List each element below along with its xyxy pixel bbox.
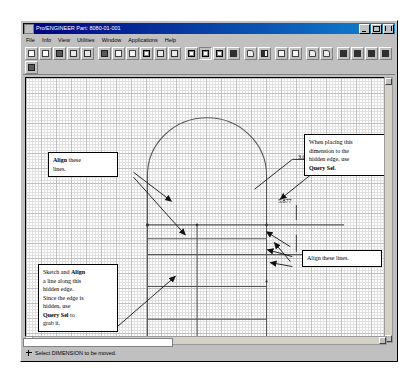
callout-qs-l2: dimension to the <box>309 147 381 156</box>
callout-align-lines-bold: Align <box>53 157 67 163</box>
callout-align-lines: Align these lines. <box>48 152 118 177</box>
scroll-right-button[interactable] <box>379 337 386 344</box>
shaded-icon[interactable] <box>227 47 240 60</box>
callout-sa-l7: grab it. <box>43 319 113 328</box>
callout-qs-period: . <box>335 165 337 171</box>
print-preview-icon[interactable] <box>67 47 80 60</box>
callout-sa-l6b: to <box>69 312 75 318</box>
open-file-icon[interactable] <box>39 47 52 60</box>
sketch-tool-icon[interactable] <box>25 61 38 74</box>
menu-item-info[interactable]: Info <box>42 36 51 45</box>
maximize-button[interactable] <box>371 24 382 34</box>
no-hidden-icon[interactable] <box>213 47 226 60</box>
menu-item-applications[interactable]: Applications <box>128 36 158 45</box>
grid-icon[interactable] <box>365 47 378 60</box>
message-well <box>23 338 173 347</box>
layer-icon[interactable] <box>337 47 350 60</box>
callout-align-these-lines: Align these lines. <box>302 250 382 267</box>
callout-qs-l1: When placing this <box>309 138 381 147</box>
hidden-line-icon[interactable] <box>199 47 212 60</box>
menu-item-view[interactable]: View <box>58 36 70 45</box>
callout-query-sel-dimension: When placing this dimension to the hidde… <box>304 134 386 176</box>
repaint-icon[interactable] <box>98 47 111 60</box>
status-message: Select DIMENSION to be moved. <box>35 349 116 357</box>
callout-sa-l3: hidden edge. <box>43 285 113 294</box>
redo-icon[interactable] <box>320 47 333 60</box>
print-icon[interactable] <box>81 47 94 60</box>
dimension-5877[interactable]: 5.877 <box>278 198 292 204</box>
callout-qs-bold: Query Sel <box>309 165 335 171</box>
callout-align-lines-t1: these <box>67 157 81 163</box>
callout-sa-l1b: Align <box>71 269 85 275</box>
menu-item-window[interactable]: Window <box>102 36 122 45</box>
datum-axis-icon[interactable] <box>258 47 271 60</box>
crosshair-icon <box>26 350 32 356</box>
wireframe-icon[interactable] <box>185 47 198 60</box>
menu-item-utilities[interactable]: Utilities <box>77 36 95 45</box>
window-title: Pro/ENGINEER Part: 8080-01-001 <box>36 24 358 33</box>
callout-atl-l1: Align these lines. <box>307 254 377 263</box>
vertical-scrollbar[interactable] <box>384 77 393 343</box>
callout-sa-l2: a line along this <box>43 277 113 286</box>
main-toolbar <box>23 46 395 61</box>
status-bar: Select DIMENSION to be moved. <box>23 347 395 359</box>
zoom-in-icon[interactable] <box>112 47 125 60</box>
title-bar[interactable]: Pro/ENGINEER Part: 8080-01-001 <box>23 23 395 34</box>
undo-icon[interactable] <box>306 47 319 60</box>
menu-bar: File Info View Utilities Window Applicat… <box>23 35 395 46</box>
datum-csys-icon[interactable] <box>289 47 302 60</box>
close-window-icon[interactable] <box>379 47 392 60</box>
spin-icon[interactable] <box>154 47 167 60</box>
callout-qs-l3: hidden edge, use <box>309 155 381 164</box>
callout-sa-l5: hidden, use <box>43 302 113 311</box>
datum-point-icon[interactable] <box>275 47 288 60</box>
pan-icon[interactable] <box>168 47 181 60</box>
callout-sketch-align-hidden-edge: Sketch and Align a line along this hidde… <box>38 264 118 332</box>
callout-sa-l1a: Sketch and <box>43 269 71 275</box>
scroll-up-button[interactable] <box>385 78 392 85</box>
menu-item-help[interactable]: Help <box>165 36 176 45</box>
datum-plane-icon[interactable] <box>244 47 257 60</box>
refit-icon[interactable] <box>140 47 153 60</box>
drawing-canvas[interactable]: 3.000 5.877 Align these lines. When plac… <box>25 77 387 343</box>
application-window: Pro/ENGINEER Part: 8080-01-001 File Info… <box>20 20 398 362</box>
zoom-out-icon[interactable] <box>126 47 139 60</box>
minimize-button[interactable] <box>359 24 370 34</box>
save-file-icon[interactable] <box>53 47 66 60</box>
secondary-toolbar <box>23 61 395 75</box>
app-icon <box>24 24 34 34</box>
callout-sa-l6a: Query Sel <box>43 312 69 318</box>
close-button[interactable] <box>383 24 394 34</box>
callout-sa-l4: Since the edge is <box>43 294 113 303</box>
new-file-icon[interactable] <box>25 47 38 60</box>
model-tree-icon[interactable] <box>351 47 364 60</box>
menu-item-file[interactable]: File <box>26 36 35 45</box>
callout-align-lines-t2: lines. <box>53 165 113 174</box>
